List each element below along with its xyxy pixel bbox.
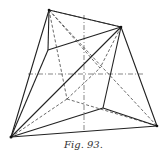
polyhedron-diagram: [0, 0, 167, 140]
axes: [28, 15, 145, 132]
figure-caption: Fig. 93.: [0, 139, 167, 150]
